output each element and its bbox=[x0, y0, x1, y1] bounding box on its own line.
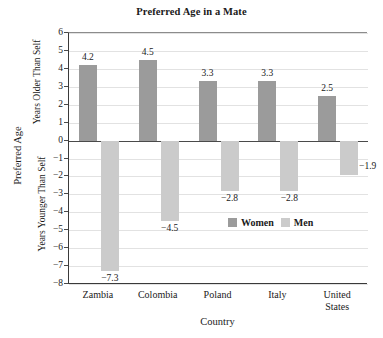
legend-swatch-women-icon bbox=[228, 218, 237, 227]
bar-value-women: 4.5 bbox=[130, 47, 166, 58]
y-tick-mark bbox=[64, 265, 68, 266]
bar-women bbox=[258, 81, 276, 140]
bar-women bbox=[318, 96, 336, 141]
y-tick-label: 3 bbox=[43, 81, 63, 91]
gridline bbox=[69, 51, 368, 52]
y-tick-label: −2 bbox=[43, 170, 63, 180]
bar-value-men: −2.8 bbox=[271, 193, 307, 204]
y-tick-mark bbox=[64, 32, 68, 33]
x-tick-label: United States bbox=[302, 289, 372, 312]
bar-men bbox=[101, 141, 119, 272]
bar-women bbox=[139, 60, 157, 141]
bar-value-men: −4.5 bbox=[152, 223, 188, 234]
y-axis-title: Preferred Age bbox=[12, 91, 23, 221]
y-tick-label: 1 bbox=[43, 117, 63, 127]
y-tick-mark bbox=[64, 283, 68, 284]
gridline bbox=[69, 33, 368, 34]
bar-value-women: 3.3 bbox=[190, 68, 226, 79]
y-tick-mark bbox=[64, 175, 68, 176]
y-tick-mark bbox=[64, 140, 68, 141]
y-tick-mark bbox=[64, 158, 68, 159]
chart-legend: Women Men bbox=[228, 217, 313, 228]
legend-label-men: Men bbox=[294, 217, 313, 228]
bar-value-women: 2.5 bbox=[309, 83, 345, 94]
y-tick-label: −1 bbox=[43, 153, 63, 163]
y-tick-mark bbox=[64, 86, 68, 87]
y-tick-label: 2 bbox=[43, 99, 63, 109]
y-tick-label: 0 bbox=[43, 135, 63, 145]
y-tick-label: −8 bbox=[43, 278, 63, 288]
y-tick-label: 5 bbox=[43, 45, 63, 55]
y-tick-mark bbox=[64, 229, 68, 230]
y-tick-mark bbox=[64, 104, 68, 105]
bar-value-women: 4.2 bbox=[70, 52, 106, 63]
bar-value-men: −2.8 bbox=[212, 193, 248, 204]
bar-women bbox=[199, 81, 217, 140]
x-axis-line bbox=[68, 283, 367, 284]
legend-entry-women: Women bbox=[228, 217, 274, 228]
y-tick-label: 6 bbox=[43, 27, 63, 37]
legend-label-women: Women bbox=[241, 217, 274, 228]
legend-entry-men: Men bbox=[281, 217, 313, 228]
x-axis-title: Country bbox=[68, 316, 367, 327]
y-tick-mark bbox=[64, 68, 68, 69]
plot-area: 4.2−7.34.5−4.53.3−2.83.3−2.82.5−1.9 bbox=[68, 32, 367, 283]
bar-women bbox=[79, 65, 97, 140]
legend-swatch-men-icon bbox=[281, 218, 290, 227]
y-tick-label: −5 bbox=[43, 224, 63, 234]
bar-men bbox=[280, 141, 298, 191]
y-tick-mark bbox=[64, 193, 68, 194]
chart-figure: Preferred Age in a Mate Preferred Age Ye… bbox=[0, 0, 383, 338]
y-tick-label: −6 bbox=[43, 242, 63, 252]
y-tick-mark bbox=[64, 122, 68, 123]
y-tick-label: 4 bbox=[43, 63, 63, 73]
y-tick-mark bbox=[64, 247, 68, 248]
y-tick-mark bbox=[64, 50, 68, 51]
y-tick-label: −7 bbox=[43, 260, 63, 270]
bar-men bbox=[161, 141, 179, 222]
bar-men bbox=[221, 141, 239, 191]
y-tick-label: −4 bbox=[43, 206, 63, 216]
bar-value-women: 3.3 bbox=[249, 68, 285, 79]
bar-men bbox=[340, 141, 358, 175]
y-tick-mark bbox=[64, 211, 68, 212]
bar-value-men: −1.9 bbox=[359, 161, 383, 172]
y-axis-upper-label: Years Older Than Self bbox=[32, 17, 42, 147]
chart-title: Preferred Age in a Mate bbox=[0, 6, 383, 17]
y-tick-label: −3 bbox=[43, 188, 63, 198]
